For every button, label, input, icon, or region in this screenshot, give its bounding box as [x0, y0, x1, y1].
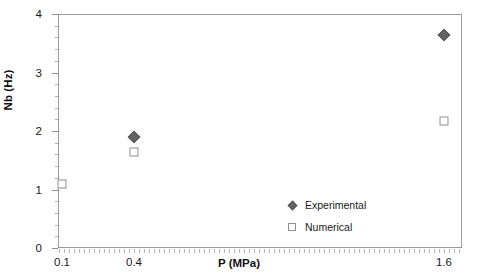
x-minor-tick: [314, 249, 315, 253]
y-minor-tick: [55, 108, 58, 109]
y-minor-tick: [55, 236, 58, 237]
x-minor-tick: [344, 249, 345, 253]
x-minor-tick: [429, 249, 430, 253]
x-minor-tick: [454, 249, 455, 253]
y-major-tick: [52, 190, 58, 191]
x-minor-tick: [254, 249, 255, 253]
x-minor-tick: [404, 249, 405, 253]
x-minor-tick: [184, 249, 185, 253]
x-minor-tick: [149, 249, 150, 253]
y-tick-label-4: 4: [36, 9, 42, 20]
y-axis-title: Nb (Hz): [2, 54, 14, 126]
x-minor-tick: [209, 249, 210, 253]
open-square-icon: [285, 223, 299, 231]
y-tick-label-3: 3: [36, 67, 42, 78]
x-minor-tick: [309, 249, 310, 253]
x-minor-tick: [444, 249, 445, 253]
y-tick-label-2: 2: [36, 126, 42, 137]
x-minor-tick: [439, 249, 440, 253]
x-minor-tick: [389, 249, 390, 253]
x-minor-tick: [109, 249, 110, 253]
plot-area: [58, 14, 462, 248]
x-minor-tick: [374, 249, 375, 253]
y-minor-tick: [55, 96, 58, 97]
x-minor-tick: [434, 249, 435, 253]
x-minor-tick: [384, 249, 385, 253]
y-minor-tick: [55, 84, 58, 85]
x-minor-tick: [414, 249, 415, 253]
x-minor-tick: [59, 249, 60, 253]
x-minor-tick: [64, 249, 65, 253]
y-axis: 4 3 2 1 0: [0, 0, 52, 278]
x-minor-tick: [219, 249, 220, 253]
y-minor-tick: [55, 143, 58, 144]
x-minor-tick: [364, 249, 365, 253]
x-minor-tick: [459, 249, 460, 253]
x-minor-tick: [79, 249, 80, 253]
x-minor-tick: [334, 249, 335, 253]
y-major-tick: [52, 131, 58, 132]
x-minor-tick: [134, 249, 135, 253]
y-major-tick: [52, 73, 58, 74]
x-minor-tick: [89, 249, 90, 253]
x-minor-tick: [354, 249, 355, 253]
x-minor-tick: [349, 249, 350, 253]
x-minor-tick: [299, 249, 300, 253]
x-minor-tick: [249, 249, 250, 253]
x-minor-tick: [194, 249, 195, 253]
x-minor-tick: [104, 249, 105, 253]
y-minor-tick: [55, 166, 58, 167]
x-minor-tick: [154, 249, 155, 253]
x-minor-tick: [324, 249, 325, 253]
x-minor-tick: [424, 249, 425, 253]
x-minor-tick: [69, 249, 70, 253]
x-minor-tick: [204, 249, 205, 253]
data-point-numerical: [440, 117, 449, 126]
x-minor-tick: [99, 249, 100, 253]
x-minor-tick: [379, 249, 380, 253]
x-minor-tick: [329, 249, 330, 253]
chart-legend: Experimental Numerical: [285, 196, 366, 240]
x-minor-tick: [139, 249, 140, 253]
x-minor-tick: [239, 249, 240, 253]
y-major-tick: [52, 248, 58, 249]
x-minor-tick: [244, 249, 245, 253]
x-minor-tick: [319, 249, 320, 253]
x-minor-tick: [159, 249, 160, 253]
x-minor-tick: [234, 249, 235, 253]
y-minor-tick: [55, 213, 58, 214]
legend-item-experimental: Experimental: [285, 196, 366, 214]
x-minor-tick: [284, 249, 285, 253]
y-tick-label-1: 1: [36, 184, 42, 195]
x-minor-tick: [144, 249, 145, 253]
y-minor-tick: [55, 61, 58, 62]
y-tick-label-0: 0: [36, 243, 42, 254]
x-minor-tick: [179, 249, 180, 253]
scatter-chart: 4 3 2 1 0 0.1 0.4 1.6 P (MPa) Nb (Hz) Ex…: [0, 0, 478, 278]
y-minor-tick: [55, 178, 58, 179]
x-minor-tick: [294, 249, 295, 253]
x-minor-tick: [119, 249, 120, 253]
y-minor-tick: [55, 49, 58, 50]
filled-diamond-icon: [285, 202, 299, 209]
x-minor-tick: [124, 249, 125, 253]
x-minor-tick: [394, 249, 395, 253]
x-minor-tick: [229, 249, 230, 253]
x-minor-tick: [199, 249, 200, 253]
x-minor-tick: [74, 249, 75, 253]
y-minor-tick: [55, 225, 58, 226]
y-minor-tick: [55, 37, 58, 38]
x-minor-tick: [269, 249, 270, 253]
x-minor-tick: [274, 249, 275, 253]
x-minor-tick: [369, 249, 370, 253]
x-minor-tick: [449, 249, 450, 253]
x-minor-tick: [289, 249, 290, 253]
y-minor-tick: [55, 119, 58, 120]
x-minor-tick: [419, 249, 420, 253]
data-point-numerical: [58, 180, 67, 189]
x-minor-tick: [409, 249, 410, 253]
legend-item-numerical: Numerical: [285, 218, 366, 236]
x-minor-tick: [399, 249, 400, 253]
legend-label: Numerical: [305, 221, 352, 233]
x-minor-tick: [174, 249, 175, 253]
